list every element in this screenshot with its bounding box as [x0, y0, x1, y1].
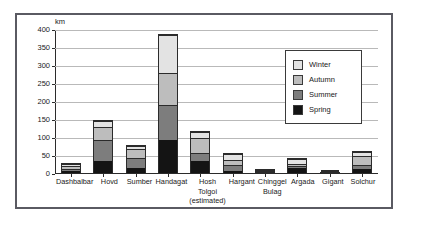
legend-swatch-icon — [293, 60, 303, 70]
x-axis-label-line: Solchur — [349, 177, 377, 187]
stacked-bar[interactable] — [287, 158, 307, 174]
bar-segment-summer[interactable] — [191, 153, 209, 161]
x-axis-label: Hovd — [94, 177, 124, 206]
bar-segment-summer[interactable] — [321, 172, 339, 173]
legend-item-summer[interactable]: Summer — [293, 87, 355, 102]
x-axis-label-line: Dashbalbar — [56, 177, 93, 187]
x-axis-label-line: (estimated) — [189, 196, 226, 206]
stacked-bar[interactable] — [223, 153, 243, 174]
bar-slot — [55, 30, 87, 174]
bar-segment-autumn[interactable] — [353, 156, 371, 165]
bar-slot — [249, 30, 281, 174]
bar-segment-spring[interactable] — [353, 169, 371, 173]
legend-swatch-icon — [293, 105, 303, 115]
legend-item-winter[interactable]: Winter — [293, 57, 355, 72]
x-axis-label: Hargant — [227, 177, 257, 206]
legend-label: Autumn — [309, 76, 335, 84]
legend-swatch-icon — [293, 75, 303, 85]
bar-segment-spring[interactable] — [94, 161, 112, 173]
bar-segment-spring[interactable] — [159, 140, 177, 173]
bar-segment-spring[interactable] — [288, 168, 306, 173]
stacked-bar[interactable] — [352, 151, 372, 174]
y-tick-label: 50 — [42, 152, 50, 160]
stacked-bar[interactable] — [190, 131, 210, 174]
bar-slot — [87, 30, 119, 174]
x-axis-label: Sumber — [124, 177, 154, 206]
x-axis-label: Handagat — [155, 177, 189, 206]
bar-segment-spring[interactable] — [224, 171, 242, 173]
bar-segment-autumn[interactable] — [127, 149, 145, 157]
bar-segment-winter[interactable] — [159, 35, 177, 73]
bar-segment-autumn[interactable] — [191, 138, 209, 154]
bar-slot — [120, 30, 152, 174]
legend-item-autumn[interactable]: Autumn — [293, 72, 355, 87]
bar-segment-autumn[interactable] — [159, 73, 177, 105]
x-axis-label-line: Argada — [289, 177, 317, 187]
y-tick-mark — [52, 174, 55, 175]
x-axis-label-line: Bulag — [258, 187, 287, 197]
stacked-bar[interactable] — [158, 34, 178, 174]
legend-swatch-icon — [293, 90, 303, 100]
x-axis-label-line: Handagat — [156, 177, 188, 187]
y-tick-label: 300 — [37, 62, 50, 70]
stacked-bar[interactable] — [93, 120, 113, 174]
x-axis-label-line: Hargant — [228, 177, 256, 187]
legend-label: Spring — [309, 106, 331, 114]
bar-segment-spring[interactable] — [127, 168, 145, 173]
x-axis-label-line: Sumber — [125, 177, 153, 187]
x-axis-labels: DashbalbarHovdSumberHandagatHoshTolgoi(e… — [55, 177, 378, 206]
bar-slot — [216, 30, 248, 174]
legend-label: Summer — [309, 91, 337, 99]
y-tick-label: 400 — [37, 26, 50, 34]
bar-slot — [152, 30, 184, 174]
y-tick-label: 100 — [37, 134, 50, 142]
bar-segment-summer[interactable] — [127, 158, 145, 168]
y-tick-label: 150 — [37, 116, 50, 124]
x-axis-label: Argada — [288, 177, 318, 206]
bar-segment-autumn[interactable] — [94, 127, 112, 140]
legend-item-spring[interactable]: Spring — [293, 102, 355, 117]
bar-slot — [184, 30, 216, 174]
x-axis-label-line: Hosh — [189, 177, 226, 187]
bar-segment-spring[interactable] — [62, 171, 80, 173]
x-axis-label: Dashbalbar — [55, 177, 94, 206]
bar-segment-summer[interactable] — [94, 140, 112, 160]
y-tick-label: 250 — [37, 80, 50, 88]
y-tick-label: 350 — [37, 44, 50, 52]
bar-segment-spring[interactable] — [191, 161, 209, 173]
chart-frame: km 050100150200250300350400 DashbalbarHo… — [15, 13, 393, 209]
x-axis-label: ChinggelBulag — [257, 177, 288, 206]
bar-segment-summer[interactable] — [159, 105, 177, 139]
x-axis-label-line: Hovd — [95, 177, 123, 187]
x-axis-label: Solchur — [348, 177, 378, 206]
x-axis-label-line: Tolgoi — [189, 187, 226, 197]
x-axis-label: Gigant — [318, 177, 348, 206]
x-axis-label-line: Gigant — [319, 177, 347, 187]
x-axis-label-line: Chinggel — [258, 177, 287, 187]
y-tick-label: 200 — [37, 98, 50, 106]
legend-label: Winter — [309, 61, 331, 69]
stacked-bar[interactable] — [61, 163, 81, 174]
chart-legend: WinterAutumnSummerSpring — [285, 50, 362, 124]
x-axis-label: HoshTolgoi(estimated) — [188, 177, 227, 206]
stacked-bar[interactable] — [126, 145, 146, 174]
y-tick-label: 0 — [46, 170, 50, 178]
y-axis-unit-label: km — [55, 18, 65, 26]
